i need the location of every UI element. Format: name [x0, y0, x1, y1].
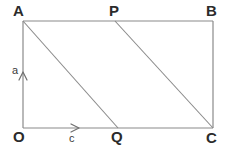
diagonal-PC [115, 21, 213, 128]
vertex-label-O: O [13, 129, 25, 144]
vertex-label-A: A [13, 3, 24, 18]
vertex-label-B: B [206, 3, 217, 18]
vector-label-a: a [12, 65, 18, 76]
vertex-label-P: P [109, 3, 119, 18]
vertex-label-Q: Q [111, 129, 123, 144]
geometry-figure: A P B O Q C a c [0, 0, 227, 151]
diagonal-AQ [23, 21, 118, 128]
vertex-label-C: C [206, 130, 217, 145]
vector-label-c: c [69, 133, 75, 144]
